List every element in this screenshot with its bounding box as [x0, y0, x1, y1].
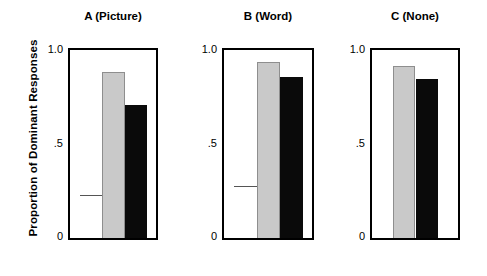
plot-frame — [68, 48, 158, 240]
bar-black — [416, 79, 439, 238]
bar-gray — [393, 66, 416, 238]
chart-figure: Proportion of Dominant Responses A (Pict… — [0, 0, 487, 276]
y-tick-label: .5 — [38, 138, 63, 149]
panel-title: A (Picture) — [68, 10, 158, 22]
panel-title: B (Word) — [222, 10, 314, 22]
plot-frame — [222, 48, 314, 240]
panel-title: C (None) — [370, 10, 460, 22]
bar-gray — [257, 62, 280, 238]
y-tick-label: 0 — [38, 231, 63, 242]
y-tick-label: 0 — [340, 231, 365, 242]
y-tick-label: 0 — [192, 231, 217, 242]
y-tick-label: 1.0 — [192, 44, 217, 55]
panel-1: A (Picture)1.0.50 — [68, 0, 158, 276]
bar-open — [80, 195, 103, 238]
plot-frame — [370, 48, 460, 240]
bar-gray — [102, 72, 125, 238]
panel-2: B (Word)1.0.50 — [222, 0, 314, 276]
y-tick-label: 1.0 — [340, 44, 365, 55]
panel-3: C (None)1.0.50 — [370, 0, 460, 276]
y-tick-label: .5 — [192, 138, 217, 149]
y-tick-label: 1.0 — [38, 44, 63, 55]
bar-black — [125, 105, 148, 238]
y-tick-label: .5 — [340, 138, 365, 149]
bar-black — [280, 77, 303, 238]
bar-open — [234, 186, 257, 238]
